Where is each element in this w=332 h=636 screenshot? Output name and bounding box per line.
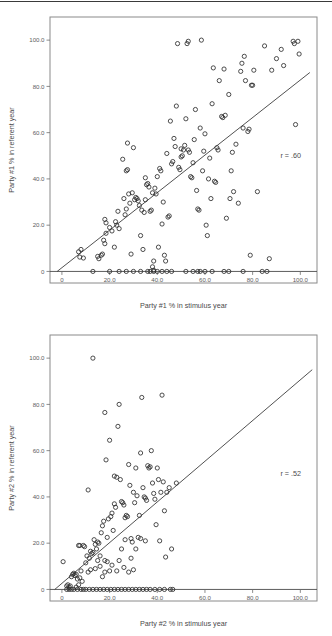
data-point <box>96 558 100 562</box>
chart-canvas: 020.040.060.080.0100.0020.040.060.080.01… <box>0 324 332 634</box>
data-point <box>174 104 178 108</box>
y-tick-label: 0 <box>41 268 45 275</box>
data-point <box>296 39 300 43</box>
data-point <box>116 209 120 213</box>
data-point <box>204 223 208 227</box>
data-point <box>149 208 153 212</box>
data-point <box>217 79 221 83</box>
y-tick-label: 40.0 <box>33 493 45 500</box>
data-point <box>248 253 252 257</box>
correlation-annotation: r = .60 <box>280 151 301 160</box>
data-point <box>184 117 188 121</box>
data-point <box>267 257 271 261</box>
data-point <box>293 122 297 126</box>
data-point <box>214 180 218 184</box>
data-point <box>119 547 123 551</box>
y-tick-label: 100.0 <box>29 36 45 43</box>
x-tick-label: 20.0 <box>104 594 116 601</box>
data-point <box>262 44 266 48</box>
data-point <box>202 149 206 153</box>
data-point <box>141 486 145 490</box>
data-point <box>103 570 107 574</box>
data-point <box>125 168 129 172</box>
data-point <box>167 214 171 218</box>
data-point <box>152 259 156 263</box>
data-point <box>212 179 216 183</box>
data-point <box>117 402 121 406</box>
data-point <box>175 42 179 46</box>
data-point <box>98 564 102 568</box>
data-point <box>123 538 127 542</box>
data-point <box>100 575 104 579</box>
data-point <box>161 200 165 204</box>
x-tick-label: 0 <box>60 594 64 601</box>
data-point <box>198 126 202 130</box>
data-points <box>61 356 178 592</box>
data-point <box>180 154 184 158</box>
data-point <box>242 54 246 58</box>
x-tick-label: 80.0 <box>247 276 259 283</box>
data-point <box>118 477 122 481</box>
data-point <box>255 190 259 194</box>
data-point <box>168 119 172 123</box>
y-tick-label: 60.0 <box>33 447 45 454</box>
data-point <box>167 486 171 490</box>
data-point <box>150 481 154 485</box>
data-point <box>228 196 232 200</box>
data-point <box>93 567 97 571</box>
data-point <box>241 126 245 130</box>
data-point <box>165 151 169 155</box>
data-point <box>156 245 160 249</box>
x-tick-label: 100.0 <box>293 276 309 283</box>
data-point <box>282 63 286 67</box>
data-point <box>183 143 187 147</box>
data-point <box>229 169 233 173</box>
y-axis-title: Party #2 % in referent year <box>7 425 16 511</box>
data-points <box>77 38 302 274</box>
data-point <box>108 569 112 573</box>
data-point <box>196 207 200 211</box>
data-point <box>231 190 235 194</box>
data-point <box>115 569 119 573</box>
data-point <box>129 556 133 560</box>
x-axis-title: Party #2 % in stimulus year <box>140 619 228 628</box>
data-point <box>234 142 238 146</box>
regression-line <box>55 370 312 590</box>
data-point <box>127 462 131 466</box>
data-point <box>164 259 168 263</box>
data-point <box>243 79 247 83</box>
data-point <box>169 547 173 551</box>
data-point <box>193 107 197 111</box>
data-point <box>133 501 137 505</box>
y-tick-label: 0 <box>41 586 45 593</box>
data-point <box>203 132 207 136</box>
y-tick-label: 20.0 <box>33 539 45 546</box>
data-point <box>105 535 109 539</box>
x-tick-label: 20.0 <box>104 276 116 283</box>
data-point <box>155 466 159 470</box>
data-point <box>192 137 196 141</box>
data-point <box>117 227 121 231</box>
data-point <box>210 102 214 106</box>
scatter-chart-party2: 020.040.060.080.0100.0020.040.060.080.01… <box>0 324 332 636</box>
y-axis-title: Party #1 % in referent year <box>7 107 16 193</box>
data-point <box>99 531 103 535</box>
data-point <box>158 539 162 543</box>
plot-frame <box>50 335 317 601</box>
data-point <box>131 490 135 494</box>
data-point <box>80 579 84 583</box>
data-point <box>189 175 193 179</box>
data-point <box>156 477 160 481</box>
data-point <box>138 451 142 455</box>
data-point <box>100 524 104 528</box>
data-point <box>164 555 168 559</box>
data-point <box>211 66 215 70</box>
page-top-rule <box>0 1 332 2</box>
data-point <box>134 466 138 470</box>
data-point <box>129 252 133 256</box>
data-point <box>112 245 116 249</box>
y-tick-label: 60.0 <box>33 129 45 136</box>
data-point <box>135 494 139 498</box>
data-point <box>123 213 127 217</box>
data-point <box>206 177 210 181</box>
